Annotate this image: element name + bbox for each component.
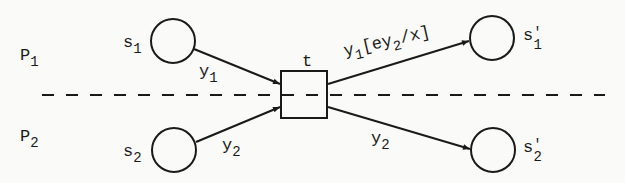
place-s2-prime <box>471 128 515 172</box>
arc-label-y1-in: y1 <box>199 62 218 86</box>
place-label-s2: s2 <box>123 142 142 166</box>
partition-label-p2: P2 <box>20 127 39 151</box>
place-label-s1-prime: s'1 <box>523 25 542 53</box>
arc-t-s2-prime <box>328 107 470 149</box>
place-label-s1: s1 <box>123 33 142 57</box>
place-s1-prime <box>470 16 514 60</box>
partition-label-p1: P1 <box>20 46 39 70</box>
place-label-s2-prime: s'2 <box>523 137 542 165</box>
arc-label-y2-out: y2 <box>371 129 390 153</box>
arc-label-y2-in: y2 <box>222 136 241 160</box>
place-s1 <box>151 19 195 63</box>
arc-s2-t <box>196 107 280 142</box>
place-s2 <box>152 128 196 172</box>
transition-label-t: t <box>302 52 312 71</box>
arc-label-y1-substitution: y1[ey2/x] <box>342 23 433 66</box>
petri-net-diagram: P1 P2 s1 s2 s'1 s'2 t y1 y2 y1[ey2/x] y2 <box>0 0 625 183</box>
